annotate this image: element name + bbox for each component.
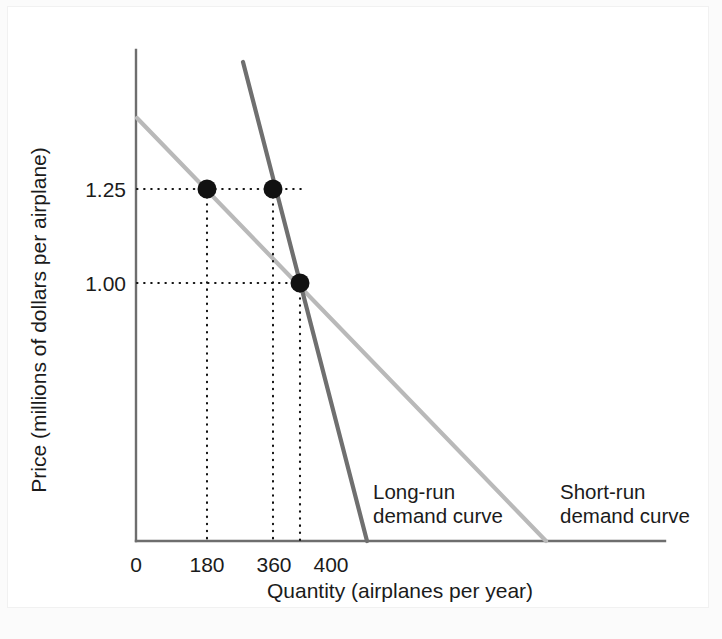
x-tick-label-180: 180 — [189, 553, 224, 576]
long-run-label-line2: demand curve — [373, 504, 503, 527]
long-run-label-line1: Long-run — [373, 480, 455, 503]
x-tick-label-360: 360 — [256, 553, 291, 576]
data-point-360-125 — [264, 180, 283, 199]
short-run-label-line2: demand curve — [560, 504, 690, 527]
long-run-demand-curve — [243, 62, 367, 541]
short-run-label-line1: Short-run — [560, 480, 645, 503]
figure-root: 1.25 1.00 0 180 360 400 Long-run demand … — [0, 0, 722, 639]
y-tick-label-125: 1.25 — [85, 178, 126, 201]
demand-curve-chart: 1.25 1.00 0 180 360 400 Long-run demand … — [0, 0, 722, 639]
data-point-400-100 — [291, 274, 310, 293]
short-run-demand-curve — [137, 118, 546, 541]
data-point-180-125 — [198, 180, 217, 199]
y-tick-label-100: 1.00 — [85, 272, 126, 295]
y-axis-title: Price (millions of dollars per airplane) — [27, 147, 50, 492]
x-axis-title: Quantity (airplanes per year) — [267, 579, 533, 602]
x-tick-label-400: 400 — [313, 553, 348, 576]
x-tick-label-0: 0 — [130, 553, 142, 576]
